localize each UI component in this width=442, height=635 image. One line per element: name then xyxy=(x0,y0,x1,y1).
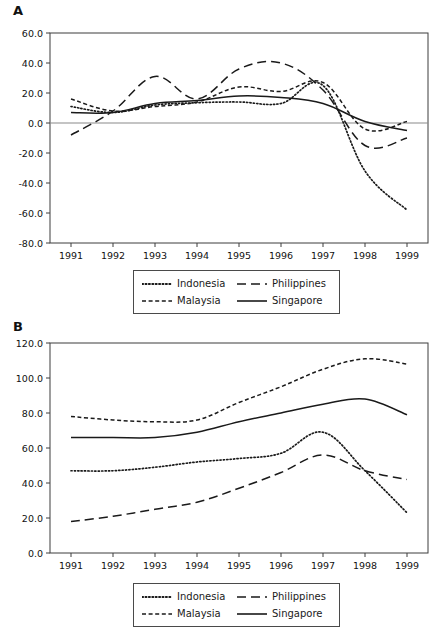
y-axis-tick-label: 120.0 xyxy=(16,338,43,349)
x-axis-tick-label: 1991 xyxy=(59,250,83,261)
legend-label: Philippines xyxy=(272,592,326,602)
legend-swatch-dotted xyxy=(142,592,172,602)
y-axis-tick-label: 20.0 xyxy=(22,88,43,99)
legend-label: Singapore xyxy=(272,609,322,619)
y-axis-tick-label: 40.0 xyxy=(22,58,43,69)
y-axis-tick-label: 0.0 xyxy=(28,118,43,129)
x-axis-tick-label: 1995 xyxy=(227,250,251,261)
y-axis-tick-label: 0.0 xyxy=(28,548,43,559)
legend-swatch-solid xyxy=(237,609,267,619)
x-axis-tick-label: 1993 xyxy=(143,560,167,571)
legend-label: Philippines xyxy=(272,279,326,289)
panel-a-plot-area: 60.040.020.00.0-20.0-40.0-60.0-80.019911… xyxy=(0,0,442,270)
x-axis-tick-label: 1997 xyxy=(311,250,335,261)
y-axis-tick-label: 60.0 xyxy=(22,443,43,454)
legend-entry-singapore: Singapore xyxy=(237,609,337,619)
x-axis-tick-label: 1993 xyxy=(143,250,167,261)
panel-b-plot-area: 120.0100.080.060.040.020.00.019911992199… xyxy=(0,317,442,587)
y-axis-tick-label: 100.0 xyxy=(16,373,43,384)
legend-label: Malaysia xyxy=(177,296,221,306)
x-axis-tick-label: 1998 xyxy=(353,250,377,261)
x-axis-tick-label: 1995 xyxy=(227,560,251,571)
legend-swatch-short-dash xyxy=(142,609,172,619)
series-line-philippines xyxy=(71,455,407,522)
x-axis-tick-label: 1998 xyxy=(353,560,377,571)
legend-entry-malaysia: Malaysia xyxy=(142,609,237,619)
legend-label: Indonesia xyxy=(177,592,225,602)
plot-frame xyxy=(50,33,428,243)
series-line-philippines xyxy=(71,61,407,148)
legend-label: Malaysia xyxy=(177,609,221,619)
legend-swatch-long-dash xyxy=(237,279,267,289)
series-line-singapore xyxy=(71,96,407,131)
legend-entry-malaysia: Malaysia xyxy=(142,296,237,306)
x-axis-tick-label: 1996 xyxy=(269,560,293,571)
x-axis-tick-label: 1994 xyxy=(185,250,209,261)
legend-entry-philippines: Philippines xyxy=(237,592,337,602)
y-axis-tick-label: -20.0 xyxy=(18,148,43,159)
legend-swatch-solid xyxy=(237,296,267,306)
figure-panel-a: A 60.040.020.00.0-20.0-40.0-60.0-80.0199… xyxy=(0,0,442,318)
line-chart-a: 60.040.020.00.0-20.0-40.0-60.0-80.019911… xyxy=(0,0,442,270)
y-axis-tick-label: 20.0 xyxy=(22,513,43,524)
y-axis-tick-label: -60.0 xyxy=(18,208,43,219)
legend-entry-philippines: Philippines xyxy=(237,279,337,289)
y-axis-tick-label: 40.0 xyxy=(22,478,43,489)
legend-panel-a: IndonesiaPhilippinesMalaysiaSingapore xyxy=(133,270,340,314)
y-axis-tick-label: 80.0 xyxy=(22,408,43,419)
legend-entry-indonesia: Indonesia xyxy=(142,279,237,289)
legend-swatch-dotted xyxy=(142,279,172,289)
legend-entry-singapore: Singapore xyxy=(237,296,337,306)
x-axis-tick-label: 1992 xyxy=(101,250,125,261)
x-axis-tick-label: 1999 xyxy=(395,250,419,261)
series-line-malaysia xyxy=(71,359,407,423)
legend-label: Indonesia xyxy=(177,279,225,289)
y-axis-tick-label: -40.0 xyxy=(18,178,43,189)
legend-entry-indonesia: Indonesia xyxy=(142,592,237,602)
legend-panel-b: IndonesiaPhilippinesMalaysiaSingapore xyxy=(133,583,340,627)
plot-frame xyxy=(50,343,428,553)
x-axis-tick-label: 1991 xyxy=(59,560,83,571)
x-axis-tick-label: 1994 xyxy=(185,560,209,571)
y-axis-tick-label: 60.0 xyxy=(22,28,43,39)
legend-swatch-short-dash xyxy=(142,296,172,306)
figure-panel-b: B 120.0100.080.060.040.020.00.0199119921… xyxy=(0,317,442,635)
line-chart-b: 120.0100.080.060.040.020.00.019911992199… xyxy=(0,317,442,587)
series-line-indonesia xyxy=(71,432,407,513)
x-axis-tick-label: 1999 xyxy=(395,560,419,571)
legend-label: Singapore xyxy=(272,296,322,306)
x-axis-tick-label: 1997 xyxy=(311,560,335,571)
legend-swatch-long-dash xyxy=(237,592,267,602)
x-axis-tick-label: 1992 xyxy=(101,560,125,571)
series-line-indonesia xyxy=(71,82,407,210)
y-axis-tick-label: -80.0 xyxy=(18,238,43,249)
series-line-singapore xyxy=(71,399,407,438)
x-axis-tick-label: 1996 xyxy=(269,250,293,261)
